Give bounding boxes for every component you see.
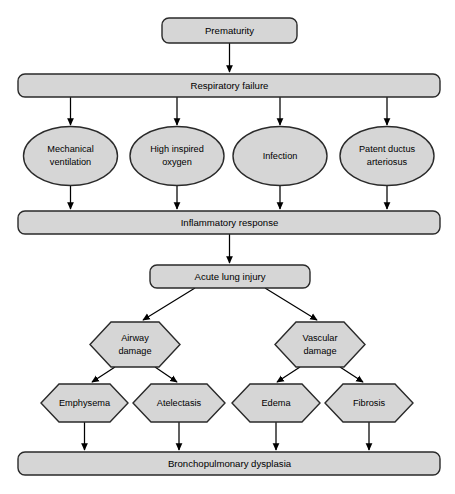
inflammatory-response-label: Inflammatory response xyxy=(181,217,279,228)
patent-ductus-arteriosus-label-line1: Patent ductus xyxy=(359,144,416,154)
patent-ductus-arteriosus-label-line2: arteriosus xyxy=(367,157,408,167)
node-acute-lung-injury[interactable]: Acute lung injury xyxy=(150,265,310,288)
high-inspired-oxygen-label-line1: High inspired xyxy=(150,144,204,154)
node-mechanical-ventilation[interactable]: Mechanical ventilation xyxy=(24,127,118,186)
mechanical-ventilation-shape xyxy=(24,127,118,186)
node-bronchopulmonary-dysplasia[interactable]: Bronchopulmonary dysplasia xyxy=(18,452,440,475)
high-inspired-oxygen-label-line2: oxygen xyxy=(162,157,192,167)
atelectasis-label: Atelectasis xyxy=(157,398,202,408)
airway-damage-label-line1: Airway xyxy=(121,333,149,343)
mechanical-ventilation-label-line2: ventilation xyxy=(50,157,91,167)
node-respiratory-failure[interactable]: Respiratory failure xyxy=(18,74,440,97)
flowchart-canvas: Prematurity Respiratory failure Mechanic… xyxy=(0,0,455,494)
node-infection[interactable]: Infection xyxy=(233,127,327,186)
respiratory-failure-label: Respiratory failure xyxy=(191,80,269,91)
flowchart-diagram: Prematurity Respiratory failure Mechanic… xyxy=(0,0,455,494)
node-edema[interactable]: Edema xyxy=(232,384,320,422)
patent-ductus-arteriosus-shape xyxy=(340,127,434,186)
node-high-inspired-oxygen[interactable]: High inspired oxygen xyxy=(130,127,224,186)
fibrosis-label: Fibrosis xyxy=(353,398,386,408)
mechanical-ventilation-label-line1: Mechanical xyxy=(47,144,93,154)
bronchopulmonary-dysplasia-label: Bronchopulmonary dysplasia xyxy=(168,458,292,469)
high-inspired-oxygen-shape xyxy=(130,127,224,186)
acute-lung-injury-label: Acute lung injury xyxy=(195,271,266,282)
node-inflammatory-response[interactable]: Inflammatory response xyxy=(18,211,440,234)
vascular-damage-label-line2: damage xyxy=(303,346,336,356)
infection-label-line1: Infection xyxy=(263,151,298,161)
node-patent-ductus-arteriosus[interactable]: Patent ductus arteriosus xyxy=(340,127,434,186)
vascular-damage-label-line1: Vascular xyxy=(302,333,337,343)
node-fibrosis[interactable]: Fibrosis xyxy=(325,384,413,422)
airway-damage-label-line2: damage xyxy=(118,346,151,356)
emphysema-label: Emphysema xyxy=(59,398,111,408)
prematurity-label: Prematurity xyxy=(205,25,254,36)
edema-label: Edema xyxy=(261,398,291,408)
node-emphysema[interactable]: Emphysema xyxy=(41,384,128,422)
node-prematurity[interactable]: Prematurity xyxy=(162,18,297,43)
node-atelectasis[interactable]: Atelectasis xyxy=(133,384,225,422)
